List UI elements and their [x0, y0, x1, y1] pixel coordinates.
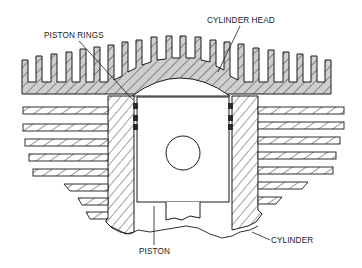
piston-pin — [166, 136, 200, 170]
cooling-fins-left — [23, 107, 108, 219]
connecting-rod — [166, 202, 200, 220]
piston-ring — [133, 103, 138, 109]
label-cylinder-head: CYLINDER HEAD — [207, 16, 275, 25]
piston-ring — [133, 115, 138, 121]
label-cylinder: CYLINDER — [271, 236, 313, 245]
cylinder-wall-right — [232, 96, 262, 230]
engine-cylinder-diagram: PISTON RINGS CYLINDER HEAD PISTON CYLIND… — [0, 0, 362, 268]
piston-ring — [228, 103, 233, 109]
label-piston-rings: PISTON RINGS — [44, 31, 104, 40]
cylinder-head — [22, 36, 331, 96]
cylinder-wall-left — [106, 96, 134, 234]
piston-ring — [133, 124, 138, 130]
piston-ring — [228, 115, 233, 121]
piston-ring — [228, 124, 233, 130]
label-piston: PISTON — [139, 247, 170, 256]
piston — [137, 97, 229, 220]
cooling-fins-right — [258, 107, 344, 204]
